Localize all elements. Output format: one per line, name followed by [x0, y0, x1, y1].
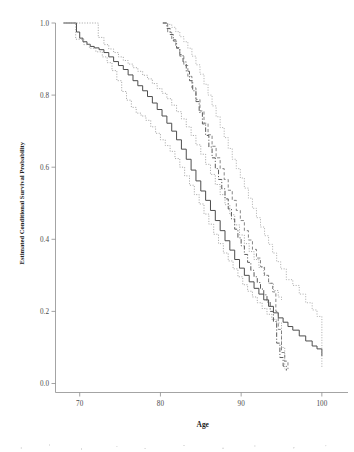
survival-curve: [64, 23, 322, 356]
survival-curve: [163, 23, 322, 368]
curve-group: [64, 23, 322, 371]
y-tick-label: 0.2: [40, 308, 49, 316]
x-axis-ticks: 708090100: [76, 393, 328, 408]
y-tick-label: 0.8: [40, 92, 49, 100]
y-tick-label: 0.6: [40, 164, 49, 172]
y-tick-label: 0.4: [40, 236, 49, 244]
plot-canvas: 0.00.20.40.60.81.0 708090100 Age Estimat…: [0, 0, 354, 452]
survival-curve: [163, 23, 286, 371]
x-tick-label: 80: [157, 400, 165, 408]
y-axis-title: Estimated Conditional Survival Probabili…: [18, 141, 25, 264]
x-tick-label: 70: [76, 400, 84, 408]
y-axis-ticks: 0.00.20.40.60.81.0: [40, 20, 55, 389]
x-axis-title: Age: [197, 420, 210, 429]
survival-curve: [64, 23, 285, 369]
x-tick-label: 90: [238, 400, 246, 408]
x-tick-label: 100: [316, 400, 327, 408]
survival-curve: [64, 23, 282, 300]
y-tick-label: 1.0: [40, 20, 49, 28]
survival-curve: [163, 23, 288, 369]
survival-curve-figure: 0.00.20.40.60.81.0 708090100 Age Estimat…: [0, 0, 354, 452]
axes-group: [56, 23, 349, 393]
y-tick-label: 0.0: [40, 380, 49, 388]
